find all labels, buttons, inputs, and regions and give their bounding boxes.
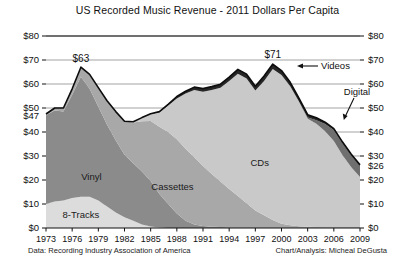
- x-tick-2006: 2006: [324, 234, 344, 244]
- annotation-start-value: $47: [23, 110, 39, 121]
- y-tick-right-10: $10: [368, 198, 384, 209]
- y-tick-left-80: $80: [23, 30, 39, 41]
- x-tick-1997: 1997: [245, 234, 265, 244]
- x-tick-2003: 2003: [298, 234, 318, 244]
- x-tick-1976: 1976: [62, 234, 82, 244]
- x-axis-labels: 1973197619791982198519881991199419972000…: [36, 234, 370, 244]
- x-tick-1991: 1991: [193, 234, 213, 244]
- chart-container: US Recorded Music Revenue - 2011 Dollars…: [0, 0, 415, 268]
- x-tick-2009: 2009: [350, 234, 370, 244]
- y-tick-right-40: $40: [368, 126, 384, 137]
- x-tick-1994: 1994: [219, 234, 239, 244]
- x-tick-1985: 1985: [141, 234, 161, 244]
- y-tick-right-20: $20: [368, 174, 384, 185]
- annotation-peak-1978: $63: [73, 53, 90, 64]
- x-tick-1979: 1979: [88, 234, 108, 244]
- series-label-8-tracks: 8-Tracks: [63, 209, 100, 220]
- digital-callout: Digital: [343, 86, 370, 120]
- y-tick-left-70: $70: [23, 54, 39, 65]
- videos-callout: Videos: [297, 60, 350, 71]
- footer-data-source: Data: Recording Industry Association of …: [28, 246, 191, 255]
- y-tick-right-70: $70: [368, 54, 384, 65]
- videos-arrow-head: [297, 63, 303, 68]
- y-tick-right-50: $50: [368, 102, 384, 113]
- y-tick-right-60: $60: [368, 78, 384, 89]
- chart-plot-area: $0$10$20$30$40$50$60$70$80 $0$10$20$30$4…: [0, 0, 415, 268]
- x-tick-2000: 2000: [271, 234, 291, 244]
- y-axis-left-labels: $0$10$20$30$40$50$60$70$80: [23, 30, 39, 233]
- annotation-end-value: $26: [368, 160, 384, 171]
- y-tick-right-80: $80: [368, 30, 384, 41]
- y-tick-right-0: $0: [368, 222, 379, 233]
- series-label-cassettes: Cassettes: [151, 181, 193, 192]
- y-tick-left-30: $30: [23, 150, 39, 161]
- stacked-area-series: [46, 64, 360, 228]
- y-tick-left-0: $0: [28, 222, 39, 233]
- y-tick-left-10: $10: [23, 198, 39, 209]
- footer-credit: Chart/Analysis: Micheal DeGusta: [276, 246, 388, 255]
- digital-arrow-line: [345, 98, 354, 117]
- x-tick-1982: 1982: [114, 234, 134, 244]
- x-tick-1988: 1988: [167, 234, 187, 244]
- videos-callout-label: Videos: [321, 60, 350, 71]
- annotation-peak-1999: $71: [264, 49, 281, 60]
- y-tick-left-60: $60: [23, 78, 39, 89]
- series-label-vinyl: Vinyl: [81, 171, 101, 182]
- series-label-cds: CDs: [250, 157, 269, 168]
- digital-callout-label: Digital: [344, 86, 370, 97]
- y-tick-left-20: $20: [23, 174, 39, 185]
- y-tick-left-40: $40: [23, 126, 39, 137]
- y-axis-right-labels: $0$10$20$30$40$50$60$70$80: [368, 30, 384, 233]
- digital-arrow-head: [343, 114, 348, 120]
- x-tick-1973: 1973: [36, 234, 56, 244]
